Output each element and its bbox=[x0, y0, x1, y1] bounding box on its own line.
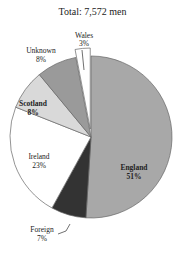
label-foreign: Foreign bbox=[30, 225, 54, 234]
foreign-leader-line bbox=[58, 224, 70, 234]
label-scotland-pct: 8% bbox=[27, 108, 38, 117]
label-unknown: Unknown bbox=[26, 46, 56, 55]
pie-slices bbox=[10, 48, 172, 218]
label-wales-pct: 3% bbox=[79, 39, 89, 48]
label-england: England bbox=[120, 163, 148, 172]
label-ireland: Ireland bbox=[28, 152, 49, 161]
label-england-pct: 51% bbox=[127, 172, 142, 181]
label-scotland: Scotland bbox=[19, 99, 48, 108]
label-foreign-pct: 7% bbox=[37, 234, 47, 243]
pie-chart: England 51% Foreign 7% Ireland 23% Scotl… bbox=[0, 0, 185, 254]
label-ireland-pct: 23% bbox=[32, 161, 46, 170]
slice-england bbox=[86, 56, 172, 218]
label-unknown-pct: 8% bbox=[36, 55, 46, 64]
